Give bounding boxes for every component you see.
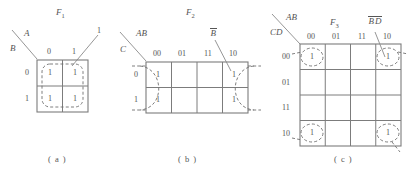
- map-c-row-header-0: 00: [282, 53, 290, 61]
- map-a-cell-1-0: 1: [48, 95, 52, 103]
- map-c-row-header-2: 11: [282, 104, 290, 112]
- map-b-col-header-0: 00: [153, 50, 161, 58]
- map-c-row-header-3: 10: [282, 130, 290, 138]
- caption-c: ( c ): [334, 155, 353, 164]
- map-a-col-header-0: 0: [47, 48, 51, 56]
- karnaugh-map-a: F1 A B 0 1 0 1 1 1 1 1 1 ( a ): [0, 0, 120, 174]
- map-b-cell-1-0: 1: [156, 96, 160, 104]
- map-b-graphics: [118, 0, 263, 174]
- map-c-col-header-0: 00: [307, 33, 315, 41]
- map-c-cell-0-0: 1: [310, 53, 314, 61]
- map-b-col-header-1: 01: [178, 50, 186, 58]
- map-a-annotation: 1: [97, 27, 101, 35]
- map-a-cell-0-1: 1: [73, 69, 77, 77]
- caption-a: ( a ): [48, 155, 67, 164]
- map-c-row-header-1: 01: [282, 79, 290, 87]
- map-b-cell-0-0: 1: [156, 71, 160, 79]
- map-c-cell-3-0: 1: [310, 129, 314, 137]
- map-a-row-var: B: [10, 44, 16, 53]
- karnaugh-map-b: F2 AB C 00 01 11 10 0 1 1 1 1 1 B ( b ): [118, 0, 263, 174]
- map-b-row-header-1: 1: [134, 96, 138, 104]
- map-a-cell-1-1: 1: [73, 95, 77, 103]
- map-c-col-header-1: 01: [332, 33, 340, 41]
- karnaugh-map-c: F3 AB CD 00 01 11 10 00 01 11 10 1 1 1: [268, 0, 410, 174]
- map-c-row-var: CD: [270, 28, 283, 37]
- caption-b: ( b ): [178, 155, 197, 164]
- map-a-graphics: [0, 0, 120, 174]
- group-tick-c-tr: [398, 52, 408, 54]
- map-c-col-var: AB: [286, 13, 297, 22]
- map-c-col-header-2: 11: [358, 33, 366, 41]
- map-c-cell-3-3: 1: [386, 129, 390, 137]
- map-b-col-var: AB: [136, 29, 147, 38]
- map-c-graphics: [268, 0, 410, 174]
- map-c-annotation: BD: [368, 16, 382, 26]
- map-a-cell-0-0: 1: [48, 69, 52, 77]
- map-b-cell-1-3: 1: [232, 96, 236, 104]
- group-tick-c-br: [392, 142, 400, 152]
- map-a-col-header-1: 1: [72, 48, 76, 56]
- map-b-row-var: C: [120, 45, 126, 54]
- map-c-col-header-3: 10: [383, 33, 391, 41]
- map-b-cell-0-3: 1: [232, 71, 236, 79]
- map-c-cell-0-3: 1: [386, 53, 390, 61]
- map-b-row-header-0: 0: [134, 71, 138, 79]
- map-b-col-header-3: 10: [229, 50, 237, 58]
- map-b-col-header-2: 11: [204, 50, 212, 58]
- map-a-row-header-0: 0: [25, 69, 29, 77]
- map-a-col-var: A: [24, 29, 30, 38]
- map-b-annotation: B: [210, 28, 217, 38]
- map-a-row-header-1: 1: [25, 95, 29, 103]
